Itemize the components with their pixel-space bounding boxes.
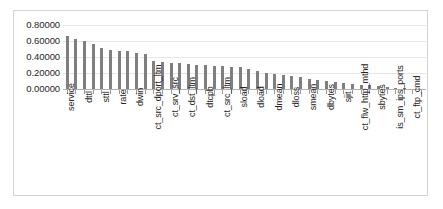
- bar-slot: [132, 25, 141, 89]
- x-label-slot: [141, 95, 150, 195]
- x-label-slot: [383, 95, 392, 195]
- bar: [126, 51, 129, 89]
- bar-slot: [296, 25, 305, 89]
- bar: [144, 54, 147, 89]
- bar-slot: [288, 25, 297, 89]
- x-label-slot: dmean: [270, 95, 279, 195]
- bar-slot: [244, 25, 253, 89]
- x-label-slot: sload: [236, 95, 245, 195]
- x-label-slot: [123, 95, 132, 195]
- y-axis-tick-label: 0.60000: [26, 36, 60, 46]
- bar-slot: [98, 25, 107, 89]
- x-label-slot: is_sm_ips_ports: [391, 95, 400, 195]
- x-label-slot: [400, 95, 409, 195]
- bar-slot: [123, 25, 132, 89]
- x-label-slot: [348, 95, 357, 195]
- x-label-slot: [175, 95, 184, 195]
- x-label-slot: dttl: [80, 95, 89, 195]
- x-axis-labels: servicedttlsttlratedwinct_src_dport_ltmc…: [63, 95, 426, 195]
- x-label-slot: dloss: [288, 95, 297, 195]
- x-label-slot: ct_dst_ltm: [184, 95, 193, 195]
- x-label-slot: ct_src_dport_ltm: [149, 95, 158, 195]
- bar: [100, 48, 103, 89]
- x-label-slot: dbytes: [322, 95, 331, 195]
- bar-slot: [253, 25, 262, 89]
- x-label-slot: [106, 95, 115, 195]
- x-label-slot: [365, 95, 374, 195]
- plot-area: [63, 25, 426, 89]
- x-label-slot: [262, 95, 271, 195]
- bar: [83, 41, 86, 89]
- x-label-slot: [417, 95, 426, 195]
- x-label-slot: [89, 95, 98, 195]
- bar-slot: [141, 25, 150, 89]
- bar: [118, 51, 121, 89]
- bar-slot: [305, 25, 314, 89]
- x-label-slot: rate: [115, 95, 124, 195]
- x-label-slot: smean: [305, 95, 314, 195]
- bar: [74, 39, 77, 89]
- y-axis-tick-label: 0.20000: [26, 68, 60, 78]
- x-label-slot: sjit: [340, 95, 349, 195]
- x-label-slot: ct_flw_http_mthd: [357, 95, 366, 195]
- y-axis-tick-label: 0.40000: [26, 52, 60, 62]
- bar: [66, 36, 69, 89]
- x-label-slot: dwin: [132, 95, 141, 195]
- x-label-slot: [72, 95, 81, 195]
- bar-slot: [279, 25, 288, 89]
- bar-slot: [374, 25, 383, 89]
- bar-slot: [236, 25, 245, 89]
- x-label-slot: ct_ftp_cmd: [409, 95, 418, 195]
- x-label-slot: [193, 95, 202, 195]
- x-label-slot: [210, 95, 219, 195]
- x-label-slot: dload: [253, 95, 262, 195]
- x-label-slot: dtcpb: [201, 95, 210, 195]
- bar: [92, 44, 95, 89]
- bar-slot: [270, 25, 279, 89]
- bar-series: [63, 25, 426, 89]
- x-label-slot: [279, 95, 288, 195]
- x-label-slot: [314, 95, 323, 195]
- bar-slot: [115, 25, 124, 89]
- x-label-slot: ct_src_ltm: [219, 95, 228, 195]
- bar-slot: [72, 25, 81, 89]
- x-label-slot: [296, 95, 305, 195]
- bar-slot: [340, 25, 349, 89]
- bar-slot: [383, 25, 392, 89]
- y-axis-tick-label: 0.00000: [26, 84, 60, 94]
- x-label-slot: sttl: [98, 95, 107, 195]
- bar-slot: [262, 25, 271, 89]
- bar: [109, 50, 112, 89]
- bar-slot: [331, 25, 340, 89]
- bar: [135, 53, 138, 89]
- bar-slot: [201, 25, 210, 89]
- bar-slot: [322, 25, 331, 89]
- bar-slot: [63, 25, 72, 89]
- y-axis-tick-label: 0.80000: [26, 20, 60, 30]
- bar-slot: [89, 25, 98, 89]
- bar-slot: [314, 25, 323, 89]
- bar-slot: [210, 25, 219, 89]
- x-label-slot: [331, 95, 340, 195]
- x-label-slot: sbytes: [374, 95, 383, 195]
- x-label-slot: [244, 95, 253, 195]
- x-label-slot: service: [63, 95, 72, 195]
- x-label-slot: [227, 95, 236, 195]
- bar-slot: [348, 25, 357, 89]
- bar-slot: [80, 25, 89, 89]
- x-label-slot: [158, 95, 167, 195]
- x-label-slot: ct_srv_src: [167, 95, 176, 195]
- chart-container: 0.800000.600000.400000.200000.00000 serv…: [13, 10, 428, 196]
- bar-slot: [106, 25, 115, 89]
- y-axis: 0.800000.600000.400000.200000.00000: [14, 11, 62, 89]
